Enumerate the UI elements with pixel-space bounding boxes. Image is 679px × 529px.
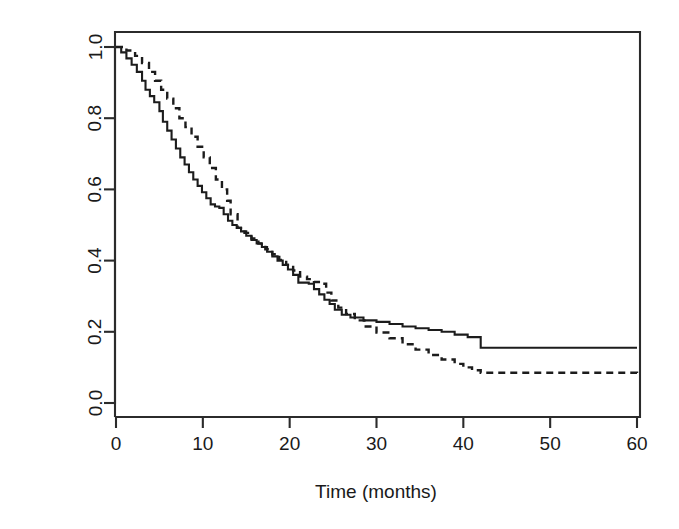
data-curves	[116, 47, 637, 377]
x-tick-label: 0	[111, 433, 122, 454]
x-tick-label: 30	[366, 433, 387, 454]
y-tick-label: 0.0	[85, 390, 106, 416]
survival-curve-dashed	[116, 47, 637, 377]
x-tick-labels: 0102030405060	[111, 433, 648, 454]
y-tick-label: 0.2	[85, 319, 106, 345]
y-axis: 0.00.20.40.60.81.0 Survival	[0, 34, 115, 416]
y-tick-label: 0.6	[85, 176, 106, 202]
x-tick-marks	[116, 417, 637, 428]
y-tick-label: 0.8	[85, 105, 106, 131]
y-tick-label: 1.0	[85, 34, 106, 60]
y-tick-label: 0.4	[85, 247, 106, 274]
survival-plot-figure: 0.00.20.40.60.81.0 Survival 010203040506…	[0, 0, 679, 529]
y-tick-marks	[104, 47, 115, 403]
plot-canvas: 0.00.20.40.60.81.0 Survival 010203040506…	[0, 0, 679, 529]
x-tick-label: 20	[279, 433, 300, 454]
x-tick-label: 40	[453, 433, 474, 454]
plot-frame	[115, 32, 640, 417]
x-tick-label: 10	[192, 433, 213, 454]
x-axis: 0102030405060 Time (months)	[111, 417, 648, 502]
y-tick-labels: 0.00.20.40.60.81.0	[85, 34, 106, 416]
x-axis-title: Time (months)	[315, 481, 437, 502]
frame-box	[115, 32, 640, 417]
x-tick-label: 50	[540, 433, 561, 454]
survival-curve-solid	[116, 47, 637, 348]
x-tick-label: 60	[626, 433, 647, 454]
